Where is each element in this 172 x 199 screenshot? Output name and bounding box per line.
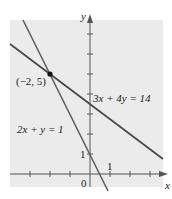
y-axis-label: y (81, 10, 86, 22)
y-tick-label: 1 (80, 148, 86, 160)
x-axis-arrow-icon (159, 171, 168, 177)
intersection-point (47, 71, 52, 76)
line-label-2x-y: 2x + y = 1 (17, 123, 64, 135)
y-axis-arrow-icon (87, 14, 93, 23)
origin-label: 0 (81, 177, 87, 189)
intersection-label: (−2, 5) (16, 75, 46, 87)
x-axis-label: x (165, 179, 170, 191)
line-label-3x-4y: 3x + 4y = 14 (93, 92, 151, 104)
x-tick-label: 1 (107, 160, 113, 172)
